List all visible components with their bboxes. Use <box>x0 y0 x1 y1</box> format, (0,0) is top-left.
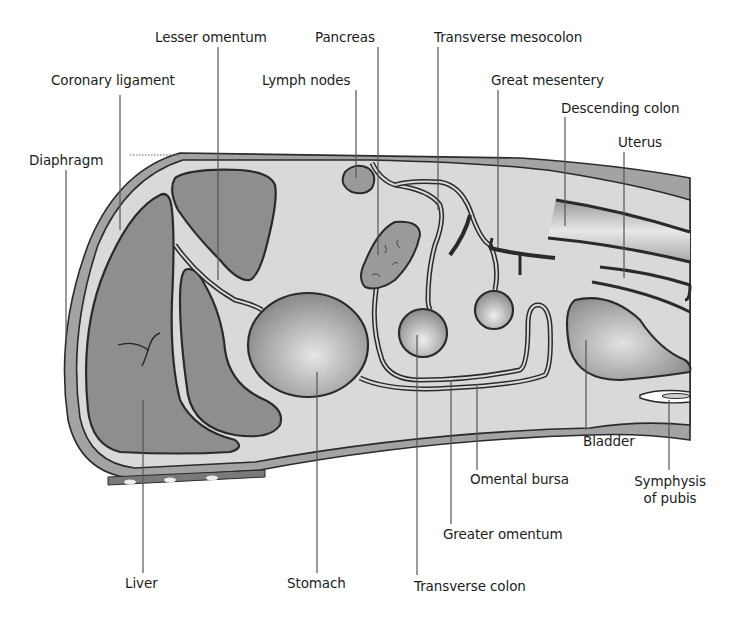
label-great-mesentery: Great mesentery <box>491 72 604 89</box>
label-lesser-omentum: Lesser omentum <box>155 29 267 46</box>
label-omental-bursa: Omental bursa <box>470 471 569 488</box>
stomach <box>248 293 368 397</box>
label-lymph-nodes: Lymph nodes <box>262 72 350 89</box>
label-coronary-ligament: Coronary ligament <box>51 72 175 89</box>
label-diaphragm: Diaphragm <box>29 152 103 169</box>
transverse-colon <box>399 309 447 357</box>
label-symphysis-line2: of pubis <box>622 490 718 507</box>
label-pancreas: Pancreas <box>315 29 375 46</box>
label-transverse-colon: Transverse colon <box>414 578 526 595</box>
abdominal-section-diagram <box>0 0 729 617</box>
label-liver: Liver <box>125 575 158 592</box>
small-intestine <box>475 291 513 329</box>
label-descending-colon: Descending colon <box>561 100 679 117</box>
label-symphysis-of-pubis: Symphysis of pubis <box>622 473 718 507</box>
label-greater-omentum: Greater omentum <box>443 526 563 543</box>
label-symphysis-line1: Symphysis <box>622 473 718 490</box>
label-uterus: Uterus <box>618 134 662 151</box>
label-transverse-mesocolon: Transverse mesocolon <box>434 29 582 46</box>
lymph-nodes <box>343 166 375 194</box>
label-stomach: Stomach <box>287 575 346 592</box>
label-bladder: Bladder <box>583 433 635 450</box>
